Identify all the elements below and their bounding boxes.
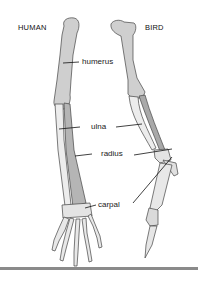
bird-humerus (111, 20, 145, 98)
human-fingers (52, 214, 102, 266)
bird-title: BIRD (145, 24, 164, 32)
human-humerus (54, 18, 79, 109)
carpal-label: carpal (98, 201, 120, 209)
bird-digit (145, 226, 157, 258)
human-carpals (62, 203, 92, 218)
bottom-divider (0, 267, 198, 270)
human-title: HUMAN (18, 24, 47, 32)
ulna-label: ulna (91, 123, 106, 131)
limb-bones-illustration (0, 0, 198, 284)
radius-label: radius (101, 150, 123, 158)
humerus-label: humerus (82, 58, 113, 66)
